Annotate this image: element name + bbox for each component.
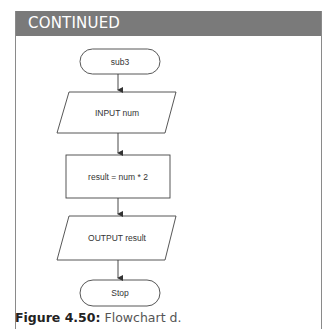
flowchart: sub3 INPUT num result = num * 2 OUTPUT r… [0, 0, 336, 329]
input-label: INPUT num [95, 108, 139, 118]
figure-caption-label: Figure 4.50: [15, 310, 101, 325]
start-label: sub3 [111, 57, 130, 67]
process-label: result = num * 2 [88, 172, 148, 182]
figure-caption: Figure 4.50: Flowchart d. [15, 310, 181, 325]
output-label: OUTPUT result [88, 233, 147, 243]
figure-caption-text: Flowchart d. [105, 310, 182, 325]
stop-label: Stop [111, 288, 129, 298]
